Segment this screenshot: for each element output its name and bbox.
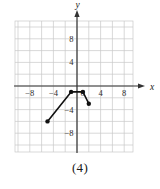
figure-container: −8−404884−4−8 x y (4)	[0, 0, 160, 189]
x-tick-label: −8	[25, 88, 34, 98]
x-tick-label: 4	[98, 88, 103, 98]
x-tick-label: 8	[122, 88, 126, 98]
y-axis-label: y	[74, 0, 80, 10]
data-point-marker	[87, 102, 91, 106]
x-axis-label: x	[149, 82, 155, 92]
y-tick-label: −8	[64, 128, 73, 138]
y-tick-label: −4	[64, 105, 74, 115]
y-tick-label: 8	[69, 34, 73, 44]
data-point-marker	[81, 90, 85, 94]
data-point-marker	[45, 119, 49, 123]
axis-lines	[14, 10, 145, 153]
data-point-marker	[69, 90, 73, 94]
x-tick-label: −4	[49, 88, 59, 98]
figure-caption: (4)	[0, 160, 160, 176]
